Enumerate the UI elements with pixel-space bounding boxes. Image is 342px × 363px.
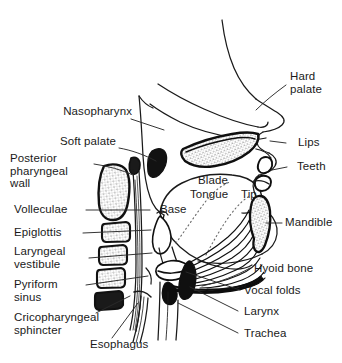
cricopharyngeal-sphincter — [134, 291, 151, 297]
teeth — [255, 157, 272, 191]
label-mandible: Mandible — [285, 216, 332, 229]
label-soft-palate: Soft palate — [30, 135, 116, 148]
label-tongue-base: Base — [160, 203, 187, 216]
leader-lips — [270, 141, 286, 143]
label-hyoid-bone: Hyoid bone — [254, 262, 313, 275]
label-cricopharyngeal-sphincter: Cricopharyngeal sphincter — [14, 311, 99, 336]
anatomical-diagram: Nasopharynx Soft palate Posterior pharyn… — [0, 0, 342, 363]
label-pyriform-sinus: Pyriform sinus — [14, 278, 58, 303]
label-epiglottis: Epiglottis — [14, 226, 62, 239]
label-trachea: Trachea — [244, 327, 286, 340]
hard-palate — [181, 133, 258, 167]
label-nasopharynx: Nasopharynx — [28, 105, 132, 118]
label-tongue: Tongue — [190, 188, 228, 201]
esophagus — [133, 296, 148, 343]
mandible — [250, 196, 270, 252]
label-vocal-folds: Vocal folds — [244, 284, 301, 297]
label-esophagus: Esophagus — [90, 338, 148, 351]
label-teeth: Teeth — [297, 160, 326, 173]
label-posterior-pharyngeal-wall: Posterior pharyngeal wall — [10, 152, 68, 190]
label-laryngeal-vestibule: Laryngeal vestibule — [14, 245, 65, 270]
label-lips: Lips — [298, 136, 320, 149]
label-tongue-blade: Blade — [198, 174, 228, 187]
nasal-cavity — [150, 84, 268, 140]
label-volleculae: Volleculae — [14, 203, 67, 216]
label-hard-palate: Hard palate — [290, 70, 322, 95]
soft-palate — [148, 149, 167, 178]
leader-trachea — [178, 303, 238, 333]
label-larynx: Larynx — [244, 305, 279, 318]
leader-hyoid-bone — [202, 268, 250, 286]
label-tongue-tip: Tip — [241, 188, 257, 201]
leader-hard-palate — [256, 85, 286, 110]
leader-nasopharynx — [131, 119, 164, 130]
epiglottis — [153, 216, 171, 254]
